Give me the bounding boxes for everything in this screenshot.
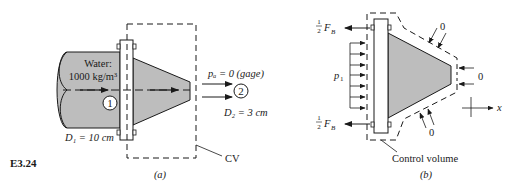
panel-b: 1 2 F B 1 2 F B p 1 — [316, 13, 502, 181]
bolt-b-top-left — [371, 25, 374, 30]
x-axis-label: x — [496, 102, 502, 113]
zero-label-right: 0 — [478, 71, 483, 82]
section-1-label: 1 — [107, 97, 113, 109]
zero-arrow-bottom-2 — [428, 109, 434, 125]
bolt-bottom-right — [133, 130, 136, 135]
fluid-label: Water: — [84, 58, 112, 69]
zero-arrow-bottom-1 — [420, 113, 426, 128]
svg-text:1: 1 — [340, 75, 344, 83]
svg-text:2: 2 — [317, 123, 321, 131]
caption-b: (b) — [420, 169, 433, 181]
section-2-label: 2 — [238, 85, 244, 97]
d1-label: D₁ = 10 cm — [64, 132, 114, 143]
control-volume-label: Control volume — [392, 153, 459, 164]
bolt-force-label-top: 1 2 F B — [316, 18, 336, 36]
figure-canvas: 1 2 Water: 1000 kg/m³ D₁ = 10 cm pₐ = 0 … — [0, 0, 531, 188]
zero-label-bottom: 0 — [429, 127, 434, 138]
cv-label: CV — [225, 153, 240, 164]
caption-a: (a) — [154, 169, 167, 181]
bolt-b-bottom-left — [371, 122, 374, 127]
panel-a: 1 2 Water: 1000 kg/m³ D₁ = 10 cm pₐ = 0 … — [10, 24, 268, 181]
svg-text:1: 1 — [317, 18, 321, 26]
d2-label: D₂ = 3 cm — [223, 107, 268, 118]
nozzle-cone — [133, 58, 190, 125]
svg-text:F: F — [323, 22, 331, 33]
pressure-distribution — [350, 43, 365, 108]
svg-text:1: 1 — [317, 114, 321, 122]
bolt-b-top-right — [388, 25, 391, 30]
svg-text:2: 2 — [317, 27, 321, 35]
zero-arrow-top-2 — [438, 33, 446, 48]
bolt-top-left — [117, 44, 120, 49]
bolt-force-label-bottom: 1 2 F B — [316, 114, 336, 132]
pressure-label: p 1 — [333, 70, 344, 83]
pa-label: pₐ = 0 (gage) — [207, 68, 264, 80]
svg-text:B: B — [331, 124, 336, 132]
bolt-b-bottom-right — [388, 122, 391, 127]
flange-plate-b — [374, 19, 388, 133]
cv-leader-line — [196, 145, 222, 156]
density-label: 1000 kg/m³ — [69, 71, 117, 82]
bolt-top-right — [133, 44, 136, 49]
bolt-bottom-left — [117, 130, 120, 135]
nozzle-cone-b — [388, 33, 451, 118]
figure-id: E3.24 — [10, 157, 37, 169]
svg-text:F: F — [323, 118, 331, 129]
zero-arrow-top-1 — [429, 28, 437, 43]
svg-text:B: B — [331, 28, 336, 36]
svg-text:p: p — [333, 70, 339, 81]
zero-label-top: 0 — [440, 21, 445, 32]
control-volume-leader — [381, 140, 397, 152]
